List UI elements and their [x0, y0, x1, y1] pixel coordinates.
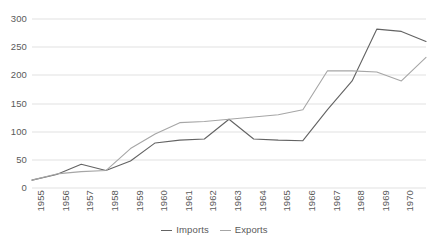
legend-item-imports[interactable]: Imports: [161, 225, 208, 235]
legend-item-exports[interactable]: Exports: [220, 225, 268, 235]
x-tick-label-text: 1969: [381, 190, 391, 212]
legend-label: Exports: [235, 225, 268, 235]
legend-label: Imports: [176, 225, 208, 235]
x-tick-label: 1961: [184, 190, 194, 212]
legend-line-icon: [220, 230, 231, 231]
series-line-imports: [32, 29, 426, 180]
x-tick-label-text: 1959: [135, 190, 145, 212]
y-tick-label: 0: [22, 183, 27, 193]
legend-line-icon: [161, 230, 172, 231]
x-tick-label-text: 1962: [208, 190, 218, 212]
x-tick-label: 1958: [110, 190, 120, 212]
x-tick-label: 1969: [381, 190, 391, 212]
x-tick-label: 1962: [208, 190, 218, 212]
x-tick-label-text: 1965: [282, 190, 292, 212]
series-line-exports: [32, 57, 426, 180]
line-chart: 050100150200250300 195519561957195819591…: [0, 0, 429, 244]
x-tick-label: 1960: [159, 190, 169, 212]
x-tick-label: 1957: [85, 190, 95, 212]
y-axis: 050100150200250300: [0, 0, 30, 244]
x-tick-label-text: 1955: [36, 190, 46, 212]
y-tick-label: 50: [16, 155, 27, 165]
x-tick-label: 1963: [233, 190, 243, 212]
y-tick-label: 150: [11, 99, 27, 109]
x-tick-label: 1967: [332, 190, 342, 212]
x-tick-label: 1970: [405, 190, 415, 212]
x-tick-label: 1955: [36, 190, 46, 212]
x-tick-label: 1966: [307, 190, 317, 212]
x-tick-label: 1959: [135, 190, 145, 212]
chart-legend: ImportsExports: [0, 222, 429, 238]
plot-area: [32, 19, 426, 188]
x-tick-label-text: 1968: [356, 190, 366, 212]
y-tick-label: 100: [11, 127, 27, 137]
x-tick-label-text: 1963: [233, 190, 243, 212]
x-tick-label-text: 1961: [184, 190, 194, 212]
y-tick-label: 250: [11, 42, 27, 52]
x-tick-label: 1956: [61, 190, 71, 212]
x-tick-label-text: 1957: [85, 190, 95, 212]
x-tick-label-text: 1967: [332, 190, 342, 212]
x-tick-label-text: 1966: [307, 190, 317, 212]
x-tick-label: 1965: [282, 190, 292, 212]
x-tick-label: 1964: [258, 190, 268, 212]
x-tick-label-text: 1956: [61, 190, 71, 212]
x-tick-label-text: 1970: [405, 190, 415, 212]
series-lines: [32, 19, 426, 188]
x-tick-label-text: 1958: [110, 190, 120, 212]
y-tick-label: 300: [11, 14, 27, 24]
y-tick-label: 200: [11, 71, 27, 81]
x-tick-label: 1968: [356, 190, 366, 212]
x-tick-label-text: 1964: [258, 190, 268, 212]
x-tick-label-text: 1960: [159, 190, 169, 212]
